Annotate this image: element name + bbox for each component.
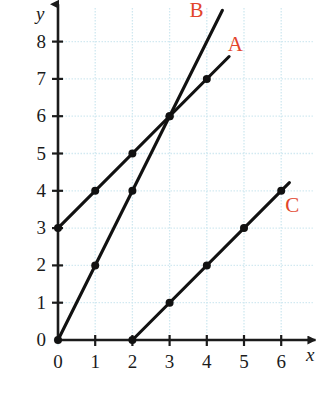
y-tick-label: 8 bbox=[24, 32, 46, 51]
data-point-a bbox=[203, 75, 211, 83]
y-tick-label: 2 bbox=[24, 255, 46, 274]
x-axis-label: x bbox=[306, 345, 314, 364]
y-tick-label: 3 bbox=[24, 218, 46, 237]
data-point-b bbox=[128, 187, 136, 195]
series-line-a bbox=[58, 57, 229, 229]
y-tick-label: 7 bbox=[24, 69, 46, 88]
coordinate-graph: 0123456 012345678 ABC x y bbox=[0, 0, 332, 395]
series-label-c: C bbox=[285, 195, 299, 216]
data-point-c bbox=[277, 187, 285, 195]
y-tick-label: 5 bbox=[24, 144, 46, 163]
series-line-b bbox=[58, 10, 222, 340]
data-point-c bbox=[203, 261, 211, 269]
grid-vertical-lines bbox=[58, 8, 281, 347]
x-tick-label: 4 bbox=[195, 352, 219, 371]
series-line-c bbox=[132, 183, 289, 340]
data-point-a bbox=[91, 187, 99, 195]
series-lines bbox=[58, 10, 289, 340]
series-label-b: B bbox=[189, 0, 203, 21]
x-tick-label: 1 bbox=[83, 352, 107, 371]
data-point-b bbox=[91, 261, 99, 269]
plot-canvas bbox=[0, 0, 332, 395]
y-tick-label: 0 bbox=[24, 330, 46, 349]
x-tick-label: 2 bbox=[120, 352, 144, 371]
x-tick-label: 5 bbox=[232, 352, 256, 371]
data-point-a bbox=[54, 224, 62, 232]
y-tick-label: 1 bbox=[24, 293, 46, 312]
axis-lines bbox=[58, 4, 315, 340]
y-tick-label: 6 bbox=[24, 106, 46, 125]
data-point-c bbox=[240, 224, 248, 232]
data-point-c bbox=[128, 336, 136, 344]
series-label-a: A bbox=[228, 34, 243, 55]
x-tick-label: 6 bbox=[269, 352, 293, 371]
x-tick-label: 0 bbox=[46, 352, 70, 371]
y-tick-label: 4 bbox=[24, 181, 46, 200]
data-point-a bbox=[128, 150, 136, 158]
x-tick-label: 3 bbox=[158, 352, 182, 371]
data-point-b bbox=[54, 336, 62, 344]
data-point-c bbox=[166, 299, 174, 307]
y-axis-label: y bbox=[36, 4, 44, 23]
data-point-b bbox=[166, 112, 174, 120]
